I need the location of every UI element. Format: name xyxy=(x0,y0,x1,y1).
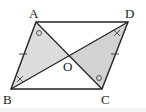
parallelogram-diagram: A D B C O xyxy=(0,0,146,112)
label-c: C xyxy=(101,92,110,107)
bottom-band xyxy=(0,108,146,112)
shaded-triangle-cdo xyxy=(69,22,128,89)
label-b: B xyxy=(3,92,12,107)
label-d: D xyxy=(125,6,134,21)
label-a: A xyxy=(29,6,39,21)
label-o: O xyxy=(63,59,72,74)
